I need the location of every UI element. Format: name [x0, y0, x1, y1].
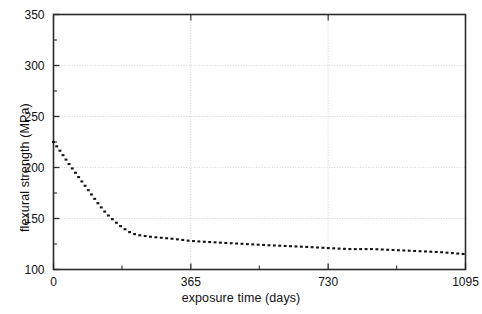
data-point-marker — [58, 150, 61, 152]
x-axis-label: exposure time (days) — [0, 291, 482, 305]
data-point-marker — [124, 228, 127, 230]
data-point-marker — [197, 240, 200, 242]
data-point-marker — [192, 240, 195, 242]
data-point-marker — [451, 252, 454, 254]
data-point-marker — [408, 250, 411, 252]
data-point-marker — [251, 243, 254, 245]
data-point-marker — [241, 243, 244, 245]
data-point-marker — [208, 241, 211, 243]
data-point-marker — [386, 249, 389, 251]
data-point-marker — [273, 244, 276, 246]
x-tick-label: 365 — [181, 275, 201, 289]
data-point-marker — [71, 167, 74, 169]
data-series-dotted-curve — [52, 141, 465, 255]
data-point-marker — [154, 236, 157, 238]
data-point-marker — [55, 145, 58, 147]
data-point-marker — [62, 154, 65, 156]
data-point-marker — [230, 242, 233, 244]
data-point-marker — [149, 236, 152, 238]
tick-labels-group: 10015020025030035003657301095 — [24, 8, 479, 289]
data-point-marker — [392, 249, 395, 251]
data-point-marker — [348, 248, 351, 250]
x-tick-label: 730 — [318, 275, 338, 289]
data-point-marker — [119, 225, 122, 227]
data-point-marker — [74, 172, 77, 174]
x-tick-label: 1095 — [452, 275, 479, 289]
data-point-marker — [115, 222, 118, 224]
data-point-marker — [90, 193, 93, 195]
plot-frame — [54, 15, 466, 270]
data-point-marker — [381, 248, 384, 250]
data-point-marker — [289, 245, 292, 247]
data-point-marker — [52, 141, 55, 143]
data-point-marker — [370, 248, 373, 250]
data-point-marker — [181, 239, 184, 241]
data-point-marker — [138, 234, 141, 236]
data-point-marker — [77, 176, 80, 178]
data-point-marker — [316, 246, 319, 248]
data-point-marker — [300, 246, 303, 248]
data-point-marker — [65, 159, 68, 161]
data-point-marker — [332, 247, 335, 249]
data-point-marker — [375, 248, 378, 250]
data-point-marker — [268, 244, 271, 246]
data-point-marker — [224, 242, 227, 244]
y-axis-label: flexural strength (MPa) — [18, 103, 32, 232]
data-point-marker — [446, 252, 449, 254]
data-point-marker — [435, 251, 438, 253]
data-point-marker — [257, 244, 260, 246]
data-point-marker — [203, 241, 206, 243]
tick-marks-group — [54, 15, 466, 270]
data-point-marker — [338, 248, 341, 250]
data-point-marker — [278, 245, 281, 247]
data-point-marker — [284, 245, 287, 247]
data-point-marker — [165, 237, 168, 239]
data-point-marker — [246, 243, 249, 245]
x-tick-label: 0 — [50, 275, 57, 289]
y-tick-label: 100 — [24, 263, 44, 277]
data-point-marker — [171, 238, 174, 240]
data-point-marker — [87, 189, 90, 191]
data-point-marker — [354, 248, 357, 250]
data-point-marker — [305, 246, 308, 248]
data-point-marker — [235, 242, 238, 244]
data-point-marker — [343, 248, 346, 250]
data-point-marker — [402, 249, 405, 251]
chart-figure: 10015020025030035003657301095 exposure t… — [0, 0, 482, 314]
data-point-marker — [456, 253, 459, 255]
data-point-marker — [103, 211, 106, 213]
data-point-marker — [327, 247, 330, 249]
data-point-marker — [111, 218, 114, 220]
data-point-marker — [93, 198, 96, 200]
data-point-marker — [397, 249, 400, 251]
data-point-marker — [219, 242, 222, 244]
data-point-marker — [68, 163, 71, 165]
data-point-marker — [187, 240, 190, 242]
data-point-marker — [133, 233, 136, 235]
data-point-marker — [311, 246, 314, 248]
data-point-marker — [80, 180, 83, 182]
data-point-marker — [144, 235, 147, 237]
data-point-marker — [321, 247, 324, 249]
data-point-marker — [128, 231, 131, 233]
data-point-marker — [462, 253, 465, 255]
data-point-marker — [440, 251, 443, 253]
gridlines-group — [54, 15, 466, 270]
data-point-marker — [262, 244, 265, 246]
data-point-marker — [413, 250, 416, 252]
data-point-marker — [214, 241, 217, 243]
data-point-marker — [419, 250, 422, 252]
data-point-marker — [84, 185, 87, 187]
data-point-marker — [176, 238, 179, 240]
y-tick-label: 300 — [24, 59, 44, 73]
data-point-marker — [429, 251, 432, 253]
flexural-strength-plot: 10015020025030035003657301095 — [0, 0, 482, 314]
data-point-marker — [359, 248, 362, 250]
data-point-marker — [424, 250, 427, 252]
data-point-marker — [160, 237, 163, 239]
data-point-marker — [107, 214, 110, 216]
data-point-marker — [365, 248, 368, 250]
data-point-marker — [294, 245, 297, 247]
data-point-marker — [100, 206, 103, 208]
y-tick-label: 350 — [24, 8, 44, 22]
